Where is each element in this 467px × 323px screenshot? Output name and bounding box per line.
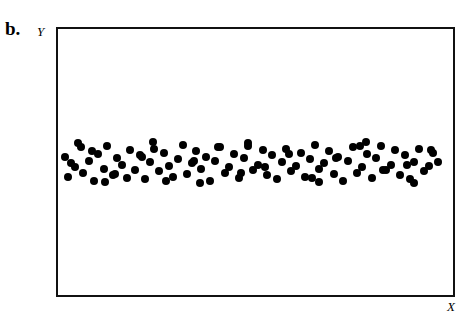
data-point bbox=[237, 169, 245, 177]
data-point bbox=[332, 154, 340, 162]
data-point bbox=[111, 170, 119, 178]
data-point bbox=[362, 138, 370, 146]
data-point bbox=[79, 169, 87, 177]
data-point bbox=[330, 170, 338, 178]
data-point bbox=[169, 173, 177, 181]
data-point bbox=[315, 178, 323, 186]
data-point bbox=[339, 177, 347, 185]
data-point bbox=[202, 153, 210, 161]
figure-panel: b. Y X bbox=[0, 0, 467, 323]
data-point bbox=[211, 157, 219, 165]
data-point bbox=[263, 171, 271, 179]
data-point bbox=[427, 146, 435, 154]
data-point bbox=[273, 175, 281, 183]
data-point bbox=[197, 165, 205, 173]
data-point bbox=[85, 157, 93, 165]
data-point bbox=[179, 141, 187, 149]
data-point bbox=[372, 154, 380, 162]
data-point bbox=[103, 142, 111, 150]
data-point bbox=[403, 161, 411, 169]
data-point bbox=[268, 151, 276, 159]
x-axis-label: X bbox=[447, 300, 455, 313]
data-point bbox=[141, 175, 149, 183]
data-point bbox=[64, 173, 72, 181]
data-point bbox=[123, 174, 131, 182]
data-point bbox=[100, 165, 108, 173]
data-point bbox=[101, 178, 109, 186]
data-point bbox=[225, 163, 233, 171]
data-point bbox=[174, 155, 182, 163]
data-point bbox=[306, 155, 314, 163]
data-point bbox=[311, 141, 319, 149]
data-point bbox=[149, 138, 157, 146]
data-point bbox=[344, 157, 352, 165]
data-point bbox=[377, 142, 385, 150]
data-point bbox=[190, 157, 198, 165]
data-point bbox=[325, 147, 333, 155]
data-point bbox=[358, 163, 366, 171]
data-point bbox=[214, 143, 222, 151]
data-point bbox=[67, 159, 75, 167]
data-point bbox=[278, 158, 286, 166]
panel-letter-label: b. bbox=[5, 19, 20, 38]
data-point bbox=[90, 177, 98, 185]
data-point bbox=[230, 150, 238, 158]
data-point bbox=[183, 170, 191, 178]
data-point bbox=[240, 154, 248, 162]
data-point bbox=[391, 146, 399, 154]
data-point bbox=[259, 146, 267, 154]
data-point bbox=[368, 174, 376, 182]
data-point bbox=[285, 150, 293, 158]
data-point bbox=[118, 161, 126, 169]
data-point bbox=[387, 161, 395, 169]
data-point bbox=[196, 179, 204, 187]
data-point bbox=[155, 167, 163, 175]
data-point bbox=[297, 149, 305, 157]
data-point bbox=[292, 162, 300, 170]
data-point bbox=[131, 166, 139, 174]
data-point bbox=[165, 162, 173, 170]
data-point bbox=[192, 147, 200, 155]
data-point bbox=[434, 158, 442, 166]
data-point bbox=[160, 149, 168, 157]
data-point bbox=[88, 147, 96, 155]
scatter-plot-area bbox=[58, 29, 453, 295]
data-point bbox=[379, 166, 387, 174]
data-point bbox=[320, 159, 328, 167]
data-point bbox=[363, 150, 371, 158]
data-point bbox=[244, 139, 252, 147]
data-point bbox=[396, 171, 404, 179]
data-point bbox=[146, 158, 154, 166]
data-point bbox=[206, 177, 214, 185]
data-point bbox=[425, 162, 433, 170]
data-point bbox=[410, 158, 418, 166]
data-point bbox=[401, 151, 409, 159]
data-point bbox=[415, 145, 423, 153]
data-point bbox=[126, 146, 134, 154]
y-axis-label: Y bbox=[37, 25, 44, 38]
data-point bbox=[74, 139, 82, 147]
data-point bbox=[410, 179, 418, 187]
data-point bbox=[138, 153, 146, 161]
data-point bbox=[162, 177, 170, 185]
data-point bbox=[261, 163, 269, 171]
plot-frame bbox=[56, 27, 455, 297]
